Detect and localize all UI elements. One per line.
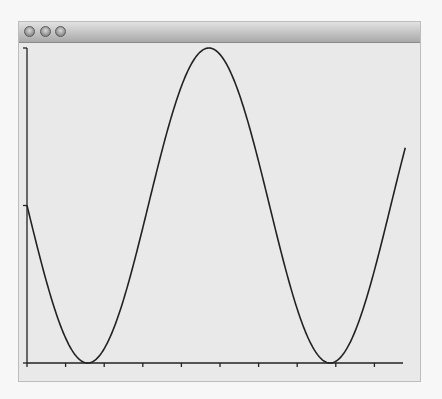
data-line: [27, 48, 405, 363]
line-chart: [0, 0, 442, 399]
axes: [23, 48, 403, 367]
